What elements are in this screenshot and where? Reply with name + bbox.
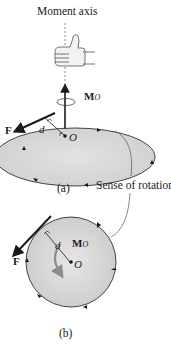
moment-label-b: MO	[72, 238, 88, 249]
disk-a	[0, 128, 155, 186]
sense-of-rotation-label: Sense of rotation	[96, 180, 171, 192]
moment-symbol-a: M	[84, 90, 94, 102]
point-label-a: O	[69, 132, 77, 143]
point-label-b: O	[74, 259, 82, 270]
moment-symbol-b: M	[72, 237, 82, 249]
caption-b: (b)	[59, 328, 72, 340]
moment-axis-label: Moment axis	[37, 6, 97, 18]
moment-label-a: MO	[84, 91, 100, 102]
distance-label-a: d	[39, 124, 45, 135]
thumbs-up-hand-icon	[55, 35, 95, 66]
point-o-a	[63, 134, 67, 138]
point-o-b	[69, 260, 73, 264]
moment-subscript-b: O	[82, 240, 88, 249]
rotation-curl-a	[57, 99, 75, 106]
force-label-a: F	[5, 125, 12, 136]
distance-label-b: d	[55, 240, 61, 251]
force-label-b: F	[13, 256, 20, 267]
moment-subscript-a: O	[94, 93, 100, 102]
moment-diagram	[0, 0, 171, 351]
caption-a: (a)	[57, 183, 70, 195]
